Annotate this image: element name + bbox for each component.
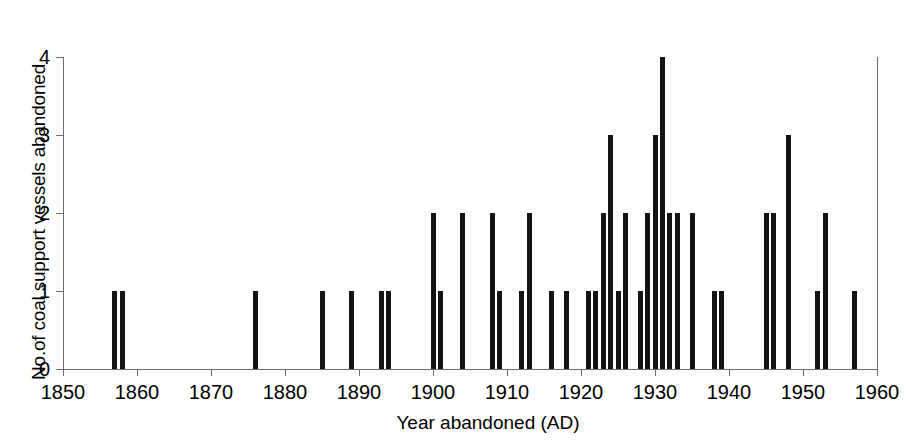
x-axis-tick xyxy=(211,369,212,376)
bar xyxy=(601,213,606,369)
bar xyxy=(616,291,621,369)
bar xyxy=(386,291,391,369)
bar xyxy=(712,291,717,369)
bar xyxy=(490,213,495,369)
bar xyxy=(349,291,354,369)
x-axis-tick xyxy=(581,369,582,376)
bar xyxy=(815,291,820,369)
bar xyxy=(719,291,724,369)
bar xyxy=(564,291,569,369)
bar xyxy=(675,213,680,369)
x-axis-tick xyxy=(729,369,730,376)
y-axis-tick xyxy=(56,369,63,370)
bar xyxy=(608,135,613,369)
bar xyxy=(112,291,117,369)
bar xyxy=(823,213,828,369)
x-axis-tick xyxy=(359,369,360,376)
x-axis-tick xyxy=(803,369,804,376)
x-axis-tick-label: 1880 xyxy=(250,381,320,403)
x-axis-line xyxy=(63,369,878,370)
plot-area xyxy=(63,57,877,369)
bar xyxy=(786,135,791,369)
bar xyxy=(593,291,598,369)
x-axis-tick xyxy=(63,369,64,376)
bar xyxy=(320,291,325,369)
y-axis-tick-label: 0 xyxy=(24,359,50,379)
bar xyxy=(497,291,502,369)
bar xyxy=(438,291,443,369)
y-axis-tick-label: 3 xyxy=(24,125,50,145)
x-axis-tick-label: 1930 xyxy=(620,381,690,403)
y-axis-tick xyxy=(56,291,63,292)
bar xyxy=(549,291,554,369)
bar xyxy=(623,213,628,369)
x-axis-tick-label: 1920 xyxy=(546,381,616,403)
y-axis-tick-label: 4 xyxy=(24,47,50,67)
x-axis-tick-label: 1850 xyxy=(28,381,98,403)
bar xyxy=(645,213,650,369)
y-axis-tick xyxy=(56,213,63,214)
x-axis-tick-label: 1940 xyxy=(694,381,764,403)
x-axis-title: Year abandoned (AD) xyxy=(396,411,579,435)
bar xyxy=(527,213,532,369)
bar xyxy=(771,213,776,369)
bar xyxy=(764,213,769,369)
bar xyxy=(653,135,658,369)
chart-figure: No.of coal support vessels abandoned 012… xyxy=(0,0,908,448)
x-axis-tick xyxy=(433,369,434,376)
bar xyxy=(460,213,465,369)
bar xyxy=(519,291,524,369)
x-axis-tick xyxy=(507,369,508,376)
bar xyxy=(667,213,672,369)
y-axis-tick-label: 1 xyxy=(24,281,50,301)
bar xyxy=(690,213,695,369)
y-axis-tick-label: 2 xyxy=(24,203,50,223)
bar xyxy=(638,291,643,369)
bar xyxy=(379,291,384,369)
x-axis-tick xyxy=(137,369,138,376)
x-axis-title-wrapper: Year abandoned (AD) xyxy=(0,411,908,435)
x-axis-tick-label: 1870 xyxy=(176,381,246,403)
y-axis-tick xyxy=(56,135,63,136)
x-axis-tick-label: 1950 xyxy=(768,381,838,403)
bar xyxy=(852,291,857,369)
x-axis-tick xyxy=(877,369,878,376)
x-axis-tick xyxy=(285,369,286,376)
x-axis-tick-label: 1860 xyxy=(102,381,172,403)
x-axis-tick-label: 1910 xyxy=(472,381,542,403)
plot-right-border xyxy=(877,57,878,369)
x-axis-tick xyxy=(655,369,656,376)
x-axis-tick-label: 1890 xyxy=(324,381,394,403)
bar xyxy=(660,57,665,369)
y-axis-tick xyxy=(56,57,63,58)
x-axis-tick-label: 1900 xyxy=(398,381,468,403)
bar xyxy=(586,291,591,369)
x-axis-tick-label: 1960 xyxy=(842,381,908,403)
bar xyxy=(120,291,125,369)
bar xyxy=(253,291,258,369)
bar xyxy=(431,213,436,369)
